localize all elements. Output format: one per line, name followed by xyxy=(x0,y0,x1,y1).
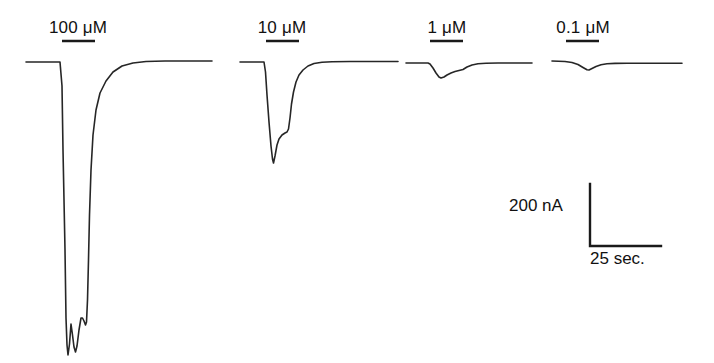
electrophysiology-figure: 100 μM 10 μM 1 μM 0.1 μM 200 nA 25 sec. xyxy=(0,0,714,363)
scale-bar-group xyxy=(590,184,661,246)
scale-bar-vertical-label: 200 nA xyxy=(509,196,563,216)
trace-100um xyxy=(26,61,212,355)
scale-bar-horizontal-label: 25 sec. xyxy=(590,249,645,269)
concentration-label-0.1um: 0.1 μM xyxy=(533,18,633,38)
traces-canvas xyxy=(0,0,714,363)
scale-bar-corner xyxy=(590,184,661,246)
trace-0.1um xyxy=(552,61,682,70)
current-traces-group xyxy=(26,61,682,355)
concentration-label-10um: 10 μM xyxy=(232,18,332,38)
concentration-label-1um: 1 μM xyxy=(397,18,497,38)
concentration-label-100um: 100 μM xyxy=(28,18,128,38)
trace-1um xyxy=(406,63,532,78)
trace-10um xyxy=(240,62,398,164)
